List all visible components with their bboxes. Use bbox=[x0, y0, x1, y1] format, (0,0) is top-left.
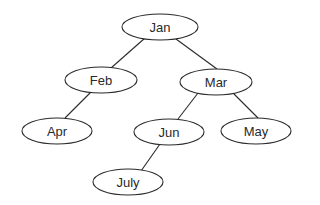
node-label-july: July bbox=[116, 175, 139, 190]
edge-jun-july bbox=[141, 144, 160, 171]
node-label-feb: Feb bbox=[90, 73, 112, 88]
node-label-may: May bbox=[244, 124, 269, 139]
node-label-apr: Apr bbox=[47, 124, 67, 139]
nodes bbox=[22, 14, 291, 195]
edge-mar-jun bbox=[178, 93, 198, 119]
edge-mar-may bbox=[233, 93, 258, 118]
node-label-mar: Mar bbox=[205, 75, 227, 90]
edge-jan-mar bbox=[176, 39, 217, 69]
edges bbox=[65, 38, 258, 171]
node-label-jan: Jan bbox=[150, 20, 171, 35]
edge-feb-apr bbox=[65, 92, 91, 118]
edge-jan-feb bbox=[111, 38, 145, 68]
node-label-jun: Jun bbox=[159, 125, 180, 140]
